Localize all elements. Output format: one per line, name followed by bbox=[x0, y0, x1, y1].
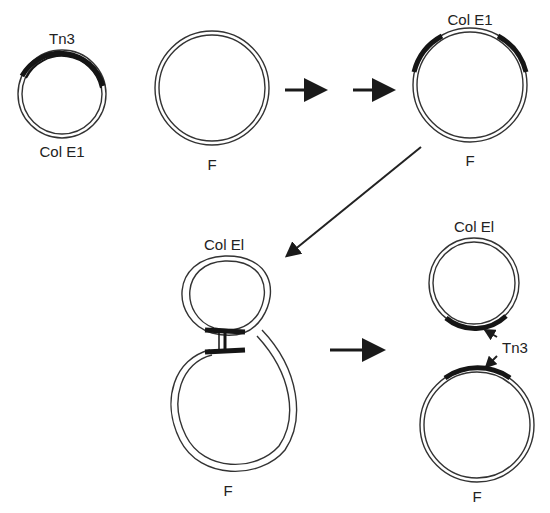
label-colE1-product: Col El bbox=[454, 218, 494, 235]
colE1-plasmid-with-tn3 bbox=[18, 50, 106, 138]
label-colE1-first: Col E1 bbox=[39, 143, 84, 160]
label-tn3-product: Tn3 bbox=[502, 339, 528, 356]
pointer-to-f-tn3 bbox=[486, 356, 497, 367]
cointegrate-plasmid bbox=[413, 28, 527, 142]
label-f-first: F bbox=[207, 156, 216, 173]
pointer-to-colE1-tn3 bbox=[485, 330, 497, 337]
resolved-f-plasmid bbox=[420, 368, 534, 482]
figure-eight-intermediate bbox=[171, 256, 296, 471]
arrow-diagonal bbox=[288, 147, 421, 255]
resolved-colE1-plasmid bbox=[429, 238, 519, 328]
tn3-cointegrate-diagram: Tn3 Col E1 F Col E1 F Col El F bbox=[0, 0, 550, 513]
f-plasmid bbox=[155, 31, 269, 145]
label-colE1-cointegrate: Col E1 bbox=[447, 11, 492, 28]
label-tn3-top: Tn3 bbox=[49, 30, 75, 47]
label-f-cointegrate: F bbox=[465, 152, 474, 169]
label-colE1-intermediate: Col El bbox=[204, 236, 244, 253]
label-f-intermediate: F bbox=[223, 482, 232, 499]
label-f-product: F bbox=[472, 488, 481, 505]
